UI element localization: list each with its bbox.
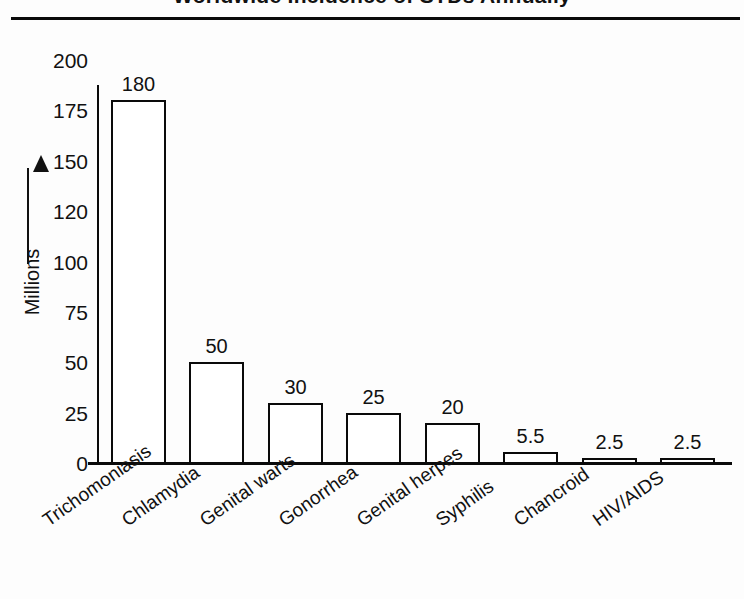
bar-value-label: 2.5: [568, 432, 651, 452]
y-axis-title-group: Millions: [14, 168, 48, 348]
x-axis-category-label: HIV/AIDS: [589, 467, 667, 530]
bar-chart: 2001751501201007550250 Millions 18050302…: [0, 0, 744, 599]
figure-page: Worldwide Incidence of STDs Annually 200…: [0, 0, 744, 599]
y-axis-label: Millions: [22, 242, 42, 322]
bar-value-label: 180: [97, 74, 180, 94]
y-axis-tick-label: 25: [26, 403, 88, 424]
bar-value-label: 25: [332, 387, 415, 407]
bar-value-label: 20: [411, 397, 494, 417]
bar[interactable]: [346, 413, 401, 464]
x-axis-category-label: Syphilis: [432, 476, 497, 530]
y-axis-line: [97, 85, 99, 464]
bar-value-label: 2.5: [646, 432, 729, 452]
y-axis-tick-label: 200: [26, 50, 88, 71]
bar-value-label: 50: [175, 336, 258, 356]
bar[interactable]: [189, 362, 244, 464]
bar[interactable]: [503, 452, 558, 464]
x-axis-category-label: Chancroid: [510, 464, 592, 530]
bar[interactable]: [111, 100, 166, 464]
y-axis-tick-label: 50: [26, 352, 88, 373]
bar[interactable]: [268, 403, 323, 464]
up-arrow-head-icon: [33, 155, 49, 172]
y-axis-tick-label: 0: [26, 453, 88, 474]
bar[interactable]: [582, 458, 637, 464]
bar-value-label: 30: [254, 377, 337, 397]
y-axis-tick-label: 175: [26, 100, 88, 121]
bar-value-label: 5.5: [489, 426, 572, 446]
bar[interactable]: [660, 458, 715, 464]
